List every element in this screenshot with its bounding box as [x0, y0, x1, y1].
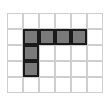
grid-cell — [87, 13, 103, 29]
grid-cell — [71, 77, 87, 93]
shaded-cell — [23, 29, 39, 45]
shaded-cell — [55, 29, 71, 45]
shaded-cell — [23, 45, 39, 61]
shaded-cell — [71, 29, 87, 45]
grid-cell — [55, 77, 71, 93]
grid-cell — [71, 45, 87, 61]
grid-cell — [71, 61, 87, 77]
grid-cell — [39, 77, 55, 93]
grid-cell — [23, 77, 39, 93]
grid-cell — [87, 29, 103, 45]
grid-cell — [87, 61, 103, 77]
grid-cell — [39, 61, 55, 77]
grid-cell — [23, 13, 39, 29]
grid-cell — [7, 45, 23, 61]
grid-cell — [55, 45, 71, 61]
grid-cell — [87, 77, 103, 93]
grid-cell — [55, 13, 71, 29]
grid-cell — [87, 45, 103, 61]
grid-cell — [71, 13, 87, 29]
grid-cell — [7, 29, 23, 45]
grid — [7, 13, 103, 93]
grid-cell — [55, 61, 71, 77]
grid-cell — [7, 13, 23, 29]
grid-cell — [7, 61, 23, 77]
grid-cell — [7, 77, 23, 93]
shaded-cell — [39, 29, 55, 45]
grid-cell — [39, 13, 55, 29]
shaded-cell — [23, 61, 39, 77]
grid-cell — [39, 45, 55, 61]
